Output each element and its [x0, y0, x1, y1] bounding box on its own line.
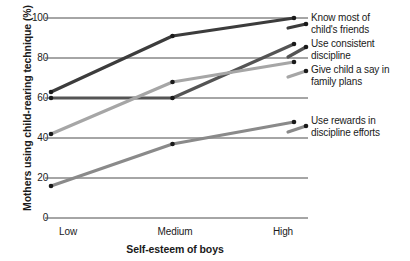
legend-label-0-line1: Know most of — [311, 12, 410, 24]
legend-label-2-line1: Give child a say in — [311, 64, 410, 76]
data-point-1-2 — [292, 42, 297, 47]
data-point-3-2 — [292, 120, 297, 125]
legend-label-0-line2: child's friends — [311, 24, 410, 36]
legend-label-0: Know most of child's friends — [311, 12, 410, 35]
legend-swatch-line-0 — [288, 24, 306, 28]
data-point-0-2 — [292, 16, 297, 21]
data-point-1-0 — [49, 96, 54, 101]
legend-label-1-line1: Use consistent — [311, 38, 410, 50]
data-point-2-1 — [170, 80, 175, 85]
data-point-3-0 — [49, 184, 54, 189]
legend-swatch-line-3 — [288, 126, 306, 132]
data-point-2-0 — [49, 132, 54, 137]
legend-label-3-line2: discipline efforts — [311, 127, 410, 139]
legend-swatch-line-1 — [288, 47, 306, 57]
data-point-3-1 — [170, 142, 175, 147]
legend-label-2-line2: family plans — [311, 76, 410, 88]
legend-swatch-marker-0 — [304, 22, 309, 27]
legend-label-3: Use rewards in discipline efforts — [311, 115, 410, 138]
data-point-2-2 — [292, 60, 297, 65]
legend-swatch-marker-1 — [304, 45, 309, 50]
data-point-0-0 — [49, 90, 54, 95]
legend-label-3-line1: Use rewards in — [311, 115, 410, 127]
legend-label-1-line2: discipline — [311, 50, 410, 62]
legend-swatch-line-2 — [288, 71, 306, 77]
legend-swatch-marker-3 — [304, 124, 309, 129]
line-chart-figure: Mothers using child-rearing technique (%… — [0, 0, 410, 261]
data-point-1-1 — [170, 96, 175, 101]
series-line-1 — [51, 44, 294, 98]
data-point-0-1 — [170, 34, 175, 39]
legend-label-1: Use consistent discipline — [311, 38, 410, 61]
series-line-3 — [51, 122, 294, 186]
legend-swatch-marker-2 — [304, 69, 309, 74]
legend-label-2: Give child a say in family plans — [311, 64, 410, 87]
